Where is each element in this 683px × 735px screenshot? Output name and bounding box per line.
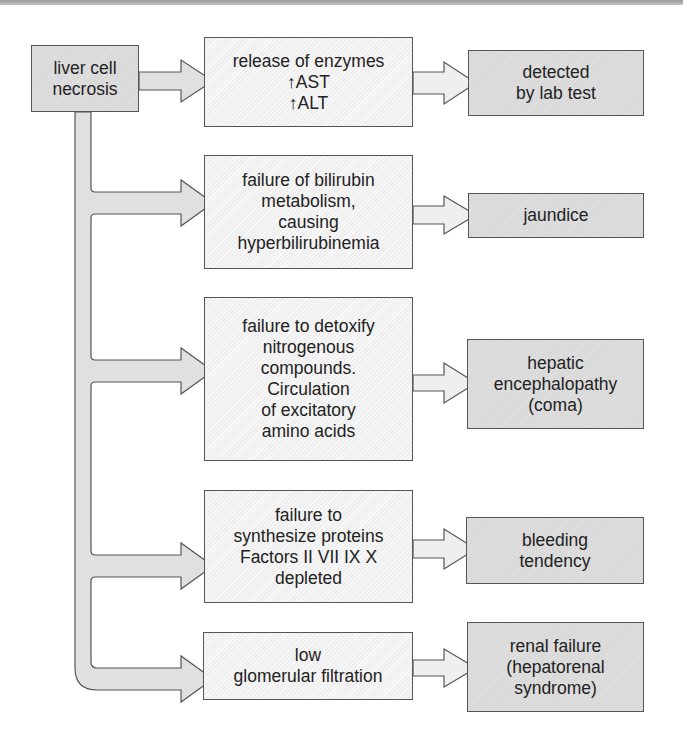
outcome-5-line-1: renal failure xyxy=(510,636,601,657)
arrow-source-to-row1 xyxy=(139,60,213,102)
outcome-3-line-3: (coma) xyxy=(528,395,582,416)
outcome-box-jaundice: jaundice xyxy=(468,193,644,238)
source-box-liver-cell-necrosis: liver cell necrosis xyxy=(31,45,139,112)
arrow-row2-to-outcome xyxy=(413,196,476,234)
mechanism-box-detoxify: failure to detoxify nitrogenous compound… xyxy=(204,297,413,461)
source-line-2: necrosis xyxy=(52,79,117,100)
mechanism-4-line-1: failure to xyxy=(275,505,342,526)
mechanism-box-glomerular-filtration: low glomerular filtration xyxy=(203,632,413,700)
outcome-3-line-2: encephalopathy xyxy=(494,374,618,395)
mechanism-1-line-3: ↑ALT xyxy=(289,93,329,114)
outcome-box-renal-failure: renal failure (hepatorenal syndrome) xyxy=(467,622,644,712)
mechanism-1-line-1: release of enzymes xyxy=(233,51,385,72)
mechanism-box-bilirubin: failure of bilirubin metabolism, causing… xyxy=(204,155,413,269)
outcome-box-lab-test: detected by lab test xyxy=(468,50,644,116)
outcome-5-line-2: (hepatorenal xyxy=(506,657,604,678)
mechanism-3-line-2: nitrogenous xyxy=(263,337,354,358)
outcome-box-hepatic-encephalopathy: hepatic encephalopathy (coma) xyxy=(467,339,644,429)
outcome-2-line-1: jaundice xyxy=(523,205,588,226)
mechanism-4-line-4: depleted xyxy=(275,568,342,589)
mechanism-4-line-3: Factors II VII IX X xyxy=(240,547,377,568)
outcome-1-line-1: detected xyxy=(522,62,589,83)
mechanism-2-line-4: hyperbilirubinemia xyxy=(237,233,379,254)
mechanism-box-protein-synthesis: failure to synthesize proteins Factors I… xyxy=(204,490,413,603)
mechanism-3-line-1: failure to detoxify xyxy=(242,316,374,337)
arrow-row1-to-outcome xyxy=(413,62,476,104)
mechanism-2-line-3: causing xyxy=(278,212,338,233)
outcome-1-line-2: by lab test xyxy=(516,83,596,104)
mechanism-2-line-2: metabolism, xyxy=(261,191,355,212)
mechanism-box-enzyme-release: release of enzymes ↑AST ↑ALT xyxy=(204,37,413,127)
mechanism-3-line-5: of excitatory xyxy=(261,400,355,421)
outcome-3-line-1: hepatic xyxy=(527,353,583,374)
outcome-4-line-2: tendency xyxy=(519,551,590,572)
mechanism-5-line-2: glomerular filtration xyxy=(234,666,383,687)
mechanism-3-line-6: amino acids xyxy=(262,421,355,442)
trunk-with-branch-arrows xyxy=(75,112,213,702)
mechanism-1-line-2: ↑AST xyxy=(287,72,330,93)
mechanism-2-line-1: failure of bilirubin xyxy=(242,170,374,191)
mechanism-4-line-2: synthesize proteins xyxy=(234,526,384,547)
outcome-4-line-1: bleeding xyxy=(522,530,588,551)
mechanism-5-line-1: low xyxy=(295,645,321,666)
outcome-box-bleeding-tendency: bleeding tendency xyxy=(466,517,644,584)
mechanism-3-line-3: compounds. xyxy=(261,358,356,379)
outcome-5-line-3: syndrome) xyxy=(514,678,597,699)
source-line-1: liver cell xyxy=(53,58,116,79)
mechanism-3-line-4: Circulation xyxy=(267,379,350,400)
